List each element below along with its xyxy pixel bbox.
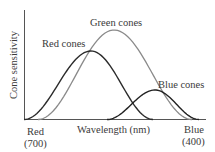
green-cones-label: Green cones — [90, 17, 142, 29]
x-left-end-value: (700) — [24, 138, 47, 150]
x-right-end-value: (400) — [182, 136, 205, 148]
x-axis-label: Wavelength (nm) — [77, 124, 150, 136]
blue-cones-label: Blue cones — [158, 79, 204, 91]
x-left-end-label: Red — [27, 126, 44, 138]
blue-cones-curve — [107, 90, 199, 119]
red-cones-curve — [24, 51, 153, 120]
cone-sensitivity-chart: Red cones Green cones Blue cones Cone se… — [0, 0, 215, 152]
y-axis-label-text: Cone sensitivity — [8, 31, 19, 99]
red-cones-label: Red cones — [42, 38, 85, 50]
x-right-end-label: Blue — [184, 124, 204, 136]
